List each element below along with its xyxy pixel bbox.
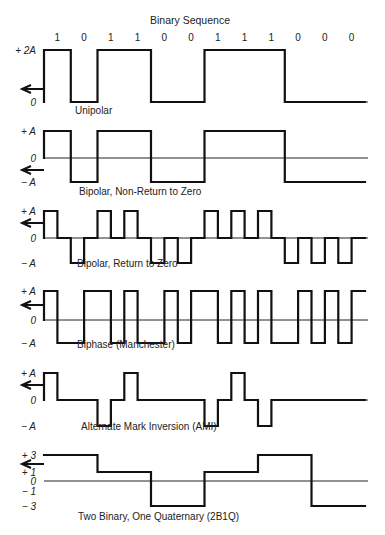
bit-label: 0 xyxy=(162,32,168,43)
waveform xyxy=(44,291,365,343)
arrow-left-icon xyxy=(22,381,44,389)
waveform xyxy=(44,50,365,102)
arrow-left-icon xyxy=(22,85,44,93)
level-label: + A xyxy=(21,126,36,137)
panel-caption: Bipolar, Return to Zero xyxy=(77,258,178,269)
bit-label: 1 xyxy=(242,32,248,43)
level-label: − A xyxy=(21,421,36,432)
bit-label: 0 xyxy=(349,32,355,43)
line-coding-diagram: Binary Sequence 101100111000 + 2A0Unipol… xyxy=(0,0,385,535)
arrow-left-icon xyxy=(22,301,44,309)
level-label: 0 xyxy=(30,315,36,326)
panel-caption: Biphase (Manchester) xyxy=(77,339,175,350)
level-label: 0 xyxy=(30,97,36,108)
bit-label: 0 xyxy=(81,32,87,43)
panel-unipolar: + 2A0Unipolar xyxy=(15,45,368,117)
panel-caption: Bipolar, Non-Return to Zero xyxy=(79,186,202,197)
level-label: + A xyxy=(21,206,36,217)
binary-sequence-labels: 101100111000 xyxy=(55,32,355,43)
bit-label: 1 xyxy=(55,32,61,43)
bit-label: 1 xyxy=(135,32,141,43)
level-label: + A xyxy=(21,368,36,379)
bit-label: 1 xyxy=(215,32,221,43)
panel-manchester: + A0− ABiphase (Manchester) xyxy=(21,286,368,351)
level-label: − A xyxy=(21,177,36,188)
level-label: − A xyxy=(21,258,36,269)
panel-ami: + A0− AAlternate Mark Inversion (AMI) xyxy=(21,368,368,433)
waveform-panels: + 2A0Unipolar+ A0− ABipolar, Non-Return … xyxy=(15,45,368,523)
level-label: 0 xyxy=(30,233,36,244)
diagram-title: Binary Sequence xyxy=(150,14,230,26)
level-label: + 3 xyxy=(22,450,37,461)
waveform xyxy=(44,211,365,263)
panel-caption: Two Binary, One Quaternary (2B1Q) xyxy=(78,511,239,522)
level-label: − A xyxy=(21,338,36,349)
level-label: − 3 xyxy=(22,501,37,512)
waveform xyxy=(44,131,365,182)
waveform xyxy=(44,373,365,426)
panel-caption: Unipolar xyxy=(75,105,113,116)
arrow-left-icon xyxy=(22,166,44,174)
level-label: + A xyxy=(21,286,36,297)
bit-label: 0 xyxy=(295,32,301,43)
level-label: + 2A xyxy=(15,45,36,56)
bit-label: 0 xyxy=(188,32,194,43)
level-label: 0 xyxy=(30,395,36,406)
arrow-left-icon xyxy=(22,219,44,227)
panel-bipolar-rz: + A0− ABipolar, Return to Zero xyxy=(21,206,368,270)
panel-caption: Alternate Mark Inversion (AMI) xyxy=(81,421,217,432)
bit-label: 1 xyxy=(269,32,275,43)
level-label: − 1 xyxy=(22,486,36,497)
level-label: 0 xyxy=(30,153,36,164)
panel-2b1q: + 3+ 10− 1− 3Two Binary, One Quaternary … xyxy=(22,450,368,523)
bit-label: 0 xyxy=(322,32,328,43)
bit-label: 1 xyxy=(108,32,114,43)
panel-bipolar-nrz: + A0− ABipolar, Non-Return to Zero xyxy=(21,126,368,198)
